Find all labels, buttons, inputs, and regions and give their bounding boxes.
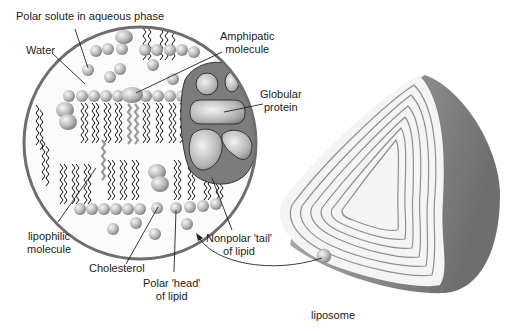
label-nonpolar-tail-line1: Nonpolar 'tail' <box>206 232 272 245</box>
label-polar-head: Polar 'head' of lipid <box>143 277 200 303</box>
label-liposome: liposome <box>311 309 355 322</box>
label-cholesterol: Cholesterol <box>89 262 145 275</box>
liposome-lipid-head <box>317 249 331 263</box>
label-globular-protein: Globular protein <box>260 88 302 114</box>
label-nonpolar-tail-line2: of lipid <box>206 245 272 258</box>
label-polar-solute: Polar solute in aqueous phase <box>16 10 164 23</box>
label-lipophilic-line1: lipophilic <box>27 230 71 243</box>
globular-protein <box>181 62 258 184</box>
label-amphipatic-line1: Amphipatic <box>220 30 274 43</box>
label-nonpolar-tail: Nonpolar 'tail' of lipid <box>206 232 272 258</box>
label-polar-head-line1: Polar 'head' <box>143 277 200 290</box>
label-water: Water <box>26 44 55 57</box>
label-lipophilic-line2: molecule <box>27 243 71 256</box>
label-lipophilic-molecule: lipophilic molecule <box>27 230 71 256</box>
label-globular-line2: protein <box>260 101 302 114</box>
label-amphipatic-molecule: Amphipatic molecule <box>220 30 274 56</box>
label-amphipatic-line2: molecule <box>220 43 274 56</box>
label-globular-line1: Globular <box>260 88 302 101</box>
label-polar-head-line2: of lipid <box>143 290 200 303</box>
